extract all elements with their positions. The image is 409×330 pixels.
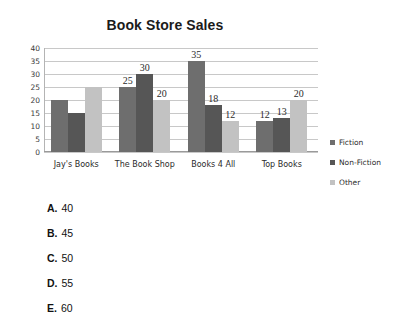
answer-option[interactable]: E.60 [47,302,247,327]
legend-label: Non-Fiction [339,158,381,167]
answer-option-value: 50 [62,252,74,264]
bar [153,100,170,152]
bar-value-label: 20 [294,88,304,99]
answer-option[interactable]: D.55 [47,277,247,302]
bar [68,113,85,152]
answer-option[interactable]: A.40 [47,202,247,227]
answer-option-letter: C. [47,252,58,264]
y-axis-tick-label: 20 [30,96,40,105]
answer-option[interactable]: B.45 [47,227,247,252]
legend-swatch-icon [330,180,335,185]
legend-label: Fiction [339,138,363,147]
gridline [44,152,318,153]
bar-value-label: 30 [140,62,150,73]
bar-value-label: 12 [260,109,270,120]
y-axis-tick-label: 25 [30,83,40,92]
bar-value-label: 25 [123,75,133,86]
bar-series-container [44,48,318,152]
legend-label: Other [339,178,360,187]
bar [136,74,153,152]
bar-group [256,48,307,152]
legend-item: Other [330,173,409,191]
answer-option-letter: E. [47,302,57,314]
y-axis-tick-label: 30 [30,70,40,79]
bar [222,121,239,152]
bar-value-label: 13 [277,106,287,117]
bar-value-label: 35 [191,49,201,60]
answer-option-letter: B. [47,227,58,239]
bar [273,118,290,152]
y-axis-tick-label: 35 [30,57,40,66]
bar [85,87,102,152]
x-axis-label: Jay's Books [54,160,99,169]
bar-group [51,48,102,152]
legend-item: Non-Fiction [330,153,409,171]
answer-option-value: 60 [61,302,73,314]
bar [51,100,68,152]
answer-options-list: A.40B.45C.50D.55E.60 [47,202,247,327]
page-title: Book Store Sales [0,17,330,33]
answer-option-value: 55 [62,277,74,289]
bar-value-label: 12 [225,109,235,120]
chart-legend: FictionNon-FictionOther [330,133,409,193]
answer-option-letter: D. [47,277,58,289]
legend-swatch-icon [330,140,335,145]
bar [119,87,136,152]
legend-swatch-icon [330,160,335,165]
bar [188,61,205,152]
bar-chart: 4035302520151050 253020351812121320 Jay'… [0,40,409,180]
bar-value-label: 20 [157,88,167,99]
y-axis-tick-label: 15 [30,109,40,118]
bar [290,100,307,152]
x-axis-label: Top Books [262,160,302,169]
answer-option-value: 45 [62,227,74,239]
x-axis-label: The Book Shop [115,160,175,169]
bar [256,121,273,152]
x-axis-category-labels: Jay's BooksThe Book ShopBooks 4 AllTop B… [44,156,318,176]
answer-option-letter: A. [47,202,58,214]
y-axis-tick-label: 10 [30,122,40,131]
y-axis-tick-label: 40 [30,44,40,53]
bar-value-label: 18 [208,93,218,104]
y-axis-tick-label: 5 [35,135,40,144]
y-axis-tick-label: 0 [35,148,40,157]
answer-option-value: 40 [62,202,74,214]
x-axis-label: Books 4 All [191,160,235,169]
answer-option[interactable]: C.50 [47,252,247,277]
bar [205,105,222,152]
plot-area: 4035302520151050 253020351812121320 [44,48,318,152]
legend-item: Fiction [330,133,409,151]
